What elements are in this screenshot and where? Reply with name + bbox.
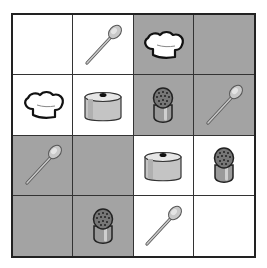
spoon-icon [139,202,187,250]
chef-hat-icon [139,21,187,69]
pot-icon [139,141,187,189]
pot-icon [79,81,127,129]
board-cell-r0-c3[interactable] [194,15,254,75]
board-cell-r3-c0[interactable] [13,196,73,256]
spoon-icon [19,141,67,189]
board-cell-r0-c0[interactable] [13,15,73,75]
puzzle-board [11,13,256,258]
board-cell-r0-c1[interactable] [73,15,133,75]
board-cell-r2-c0[interactable] [13,136,73,196]
board-cell-r3-c2[interactable] [134,196,194,256]
spoon-icon [200,81,248,129]
board-cell-r2-c3[interactable] [194,136,254,196]
board-cell-r1-c3[interactable] [194,75,254,135]
salt-shaker-icon [79,202,127,250]
board-cell-r1-c1[interactable] [73,75,133,135]
board-cell-r2-c1[interactable] [73,136,133,196]
board-cell-r1-c0[interactable] [13,75,73,135]
board-cell-r2-c2[interactable] [134,136,194,196]
salt-shaker-icon [139,81,187,129]
board-cell-r3-c3[interactable] [194,196,254,256]
chef-hat-icon [19,81,67,129]
spoon-icon [79,21,127,69]
board-cell-r0-c2[interactable] [134,15,194,75]
salt-shaker-icon [200,141,248,189]
board-cell-r1-c2[interactable] [134,75,194,135]
board-cell-r3-c1[interactable] [73,196,133,256]
